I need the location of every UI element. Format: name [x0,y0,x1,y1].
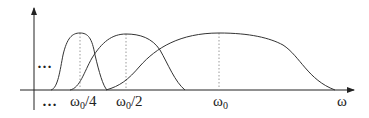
band-curve-w0 [106,33,335,90]
x-axis-label: ω [337,93,347,109]
svg-text:ω0: ω0 [213,93,228,111]
band-curve-w0-4 [51,33,107,90]
tick-label-w0-4: ω0/4 [70,93,97,111]
ellipsis-bottom: … [42,93,59,109]
band-curve-w0-2 [70,34,185,90]
svg-text:ω0/4: ω0/4 [70,93,97,111]
filter-bank-diagram: … … ω0/4 ω0/2 ω0 ω [0,0,369,118]
ellipsis-left: … [37,55,54,71]
tick-label-w0-2: ω0/2 [116,93,143,111]
tick-label-w0: ω0 [213,93,228,111]
svg-text:ω0/2: ω0/2 [116,93,143,111]
